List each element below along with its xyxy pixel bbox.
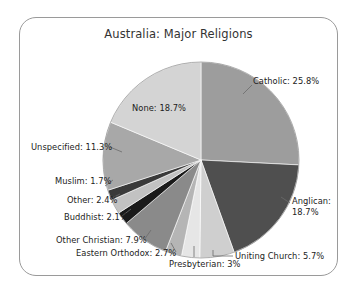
slice-label-uniting-church: Uniting Church: 5.7% [235, 251, 324, 261]
slice-label-presbyterian: Presbyterian: 3% [169, 259, 241, 269]
slice-label-other-christian: Other Christian: 7.9% [56, 235, 147, 245]
slice-label-anglican: Anglican:18.7% [292, 196, 338, 217]
slice-label-eastern-orthodox: Eastern Orthodox: 2.7% [76, 248, 176, 258]
slice-label-muslim: Muslim: 1.7% [55, 176, 112, 186]
pie-slice-group [103, 62, 299, 258]
slice-label-unspecified: Unspecified: 11.3% [31, 142, 112, 152]
slice-label-catholic: Catholic: 25.8% [253, 76, 319, 86]
slice-label-buddhist: Buddhist: 2.1% [64, 212, 128, 222]
slice-label-anglican-line2: 18.7% [292, 207, 319, 217]
chart-screenshot: Australia: Major Religions Catholic: 25.… [0, 0, 357, 299]
slice-label-anglican-line1: Anglican: [292, 196, 331, 206]
slice-label-none: None: 18.7% [132, 103, 186, 113]
slice-label-other: Other: 2.4% [67, 195, 117, 205]
